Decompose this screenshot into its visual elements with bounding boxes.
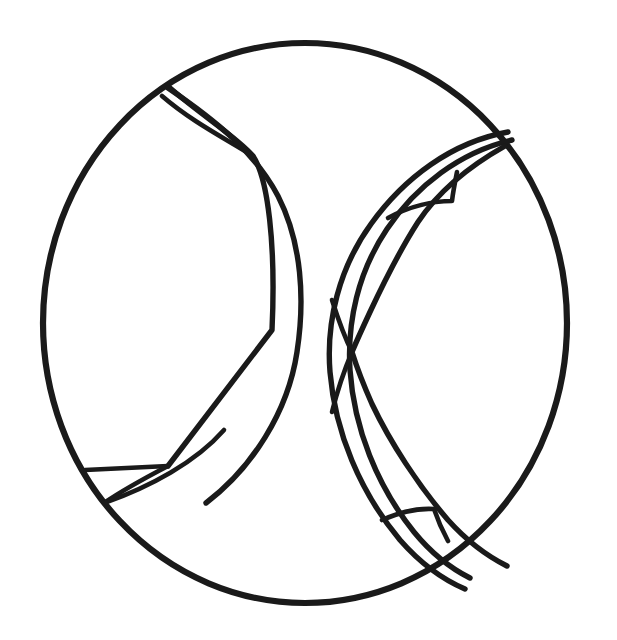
tennis-ball-illustration bbox=[0, 0, 617, 640]
drawing-canvas: Tennis Ball Outline Black outline drawin… bbox=[0, 0, 617, 640]
canvas-background bbox=[0, 0, 617, 640]
